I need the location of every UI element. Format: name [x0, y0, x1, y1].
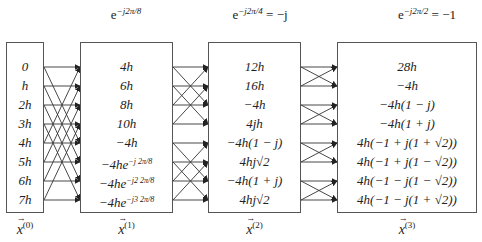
value-cell: 2h: [7, 97, 43, 113]
value-cell: 4h(−1 − j(1 − √2)): [338, 173, 476, 189]
stage-box-2: 12h 16h −4h 4jh −4h(1 − j) 4hj√2 −4h(1 +…: [208, 42, 301, 213]
value-cell: 3h: [7, 116, 43, 132]
value-cell: 6h: [7, 173, 43, 189]
value-cell: 5h: [7, 154, 43, 170]
value-cell: −4he−j 2π/8: [81, 154, 172, 173]
value-cell: 4jh: [209, 116, 300, 132]
stage-label-3: x(3): [337, 220, 477, 238]
value-cell: 4h(−1 − j(1 + √2)): [338, 192, 476, 208]
value-cell: 4h: [7, 135, 43, 151]
value-cell: 28h: [338, 59, 476, 75]
value-cell: 4hj√2: [209, 192, 300, 208]
value-cell: −4he−j2 2π/8: [81, 173, 172, 192]
vector-symbol: x: [118, 222, 124, 237]
value-cell: 6h: [81, 78, 172, 94]
value-exponent: −j3 2π/8: [126, 195, 154, 204]
value-cell: 16h: [209, 78, 300, 94]
value-base: −4he: [101, 157, 129, 172]
value-cell: −4h(1 + j): [338, 116, 476, 132]
value-exponent: −j2 2π/8: [126, 176, 154, 185]
value-cell: −4he−j3 2π/8: [81, 192, 172, 211]
value-cell: 12h: [209, 59, 300, 75]
value-cell: 4h(−1 + j(1 − √2)): [338, 154, 476, 170]
vector-symbol: x: [399, 222, 405, 237]
stage-label-1: x(1): [80, 220, 173, 238]
stage-label-0: x(0): [6, 220, 44, 238]
value-cell: −4h: [209, 97, 300, 113]
value-cell: h: [7, 78, 43, 94]
value-cell: −4h: [81, 135, 172, 151]
stage-box-0: 0 h 2h 3h 4h 5h 6h 7h: [6, 42, 44, 213]
value-cell: 4hj√2: [209, 154, 300, 170]
value-exponent: −j 2π/8: [128, 157, 152, 166]
vector-symbol: x: [246, 222, 252, 237]
value-cell: 4h(−1 + j(1 + √2)): [338, 135, 476, 151]
value-cell: −4h(1 + j): [209, 173, 300, 189]
value-cell: 4h: [81, 59, 172, 75]
stage-box-1: 4h 6h 8h 10h −4h −4he−j 2π/8 −4he−j2 2π/…: [80, 42, 173, 213]
vector-symbol: x: [17, 222, 23, 237]
value-cell: −4h(1 − j): [209, 135, 300, 151]
value-cell: 10h: [81, 116, 172, 132]
value-cell: −4h: [338, 78, 476, 94]
value-cell: 7h: [7, 192, 43, 208]
value-cell: −4h(1 − j): [338, 97, 476, 113]
value-base: −4he: [99, 176, 127, 191]
value-base: −4he: [99, 195, 127, 210]
stage-label-2: x(2): [208, 220, 301, 238]
stage-box-3: 28h −4h −4h(1 − j) −4h(1 + j) 4h(−1 + j(…: [337, 42, 477, 213]
value-cell: 8h: [81, 97, 172, 113]
value-cell: 0: [7, 59, 43, 75]
